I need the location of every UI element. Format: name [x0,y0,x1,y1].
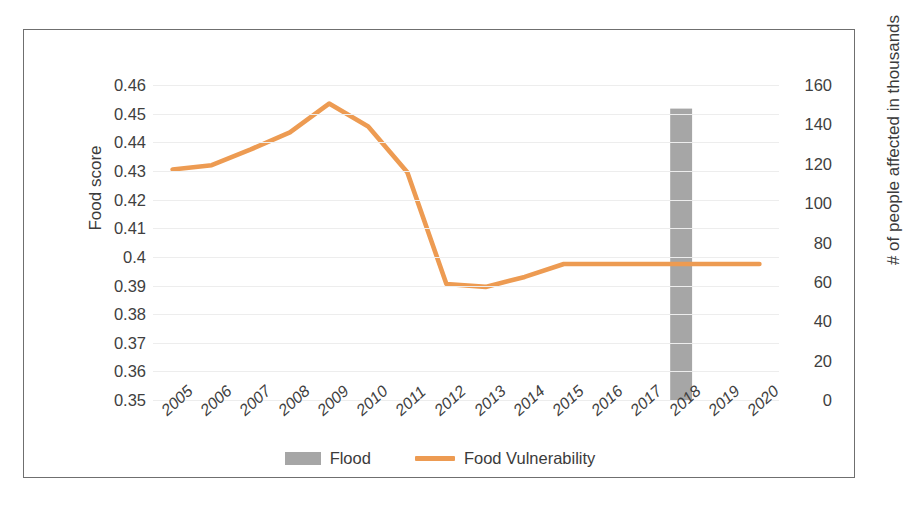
right-axis-tick: 60 [786,274,832,291]
left-axis-tick: 0.37 [88,334,146,351]
series-canvas [153,85,779,400]
right-axis-tick: 140 [786,116,832,133]
gridline [153,200,779,201]
left-axis-tick: 0.38 [88,306,146,323]
gridline [153,114,779,115]
left-axis-tick: 0.43 [88,163,146,180]
left-axis-tick: 0.42 [88,191,146,208]
left-axis-tick: 0.44 [88,134,146,151]
right-axis-tick: 160 [786,77,832,94]
left-axis-tick-labels: 0.460.450.440.430.420.410.40.390.380.370… [84,85,146,400]
right-axis-tick: 0 [786,392,832,409]
gridline [153,257,779,258]
flood-swatch-icon [285,452,321,465]
chart-frame: Food score 0.460.450.440.430.420.410.40.… [23,29,855,478]
gridline [153,286,779,287]
food-vulnerability-swatch-icon [415,456,455,461]
left-axis-tick: 0.46 [88,77,146,94]
gridline [153,314,779,315]
right-axis-tick: 40 [786,313,832,330]
right-axis-title: # of people affected in thousands [884,0,904,290]
gridline [153,343,779,344]
left-axis-tick: 0.39 [88,277,146,294]
legend-label-flood: Flood [330,449,371,468]
right-axis-tick: 120 [786,156,832,173]
gridline [153,85,779,86]
right-axis-tick-labels: 160140120100806040200 [786,85,834,400]
legend-item-food-vulnerability[interactable]: Food Vulnerability [415,449,595,468]
plot-area [153,85,779,400]
left-axis-tick: 0.4 [88,249,146,266]
left-axis-tick: 0.41 [88,220,146,237]
gridline [153,228,779,229]
legend-label-food-vulnerability: Food Vulnerability [464,449,595,468]
gridline [153,171,779,172]
right-axis-tick: 80 [786,234,832,251]
left-axis-tick: 0.35 [88,392,146,409]
legend-item-flood[interactable]: Flood [285,449,371,468]
right-axis-tick: 100 [786,195,832,212]
gridline [153,142,779,143]
flood-bar [670,109,692,400]
chart-legend: Flood Food Vulnerability [24,449,856,468]
gridline [153,371,779,372]
left-axis-tick: 0.36 [88,363,146,380]
left-axis-tick: 0.45 [88,105,146,122]
right-axis-tick: 20 [786,352,832,369]
flood-bars [670,109,692,400]
